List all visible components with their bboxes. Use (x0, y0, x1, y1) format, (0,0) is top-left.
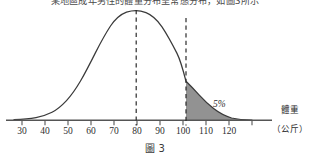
xtick-label-100: 100 (176, 126, 191, 136)
xtick-label-80: 80 (132, 126, 142, 136)
xtick-label-110: 110 (199, 126, 213, 136)
axis-name-weight: 體重 (281, 104, 299, 115)
axis-name-unit: （公斤） (272, 124, 308, 134)
xtick-label-30: 30 (17, 126, 27, 136)
xtick-label-120: 120 (222, 126, 237, 136)
tail-percent-label: 5% (213, 99, 226, 109)
figure-caption: 圖 3 (0, 140, 310, 155)
normal-distribution-plot: 30 40 50 60 70 80 90 100 110 120 5% 體重 （… (0, 0, 310, 140)
xtick-label-70: 70 (109, 126, 119, 136)
xtick-label-50: 50 (63, 126, 73, 136)
xtick-label-40: 40 (40, 126, 50, 136)
figure-container: 某地區成年男性的體重分布呈常態分布，如圖3所示 30 40 50 60 70 (0, 0, 310, 159)
xtick-label-90: 90 (155, 126, 165, 136)
xtick-label-60: 60 (86, 126, 96, 136)
